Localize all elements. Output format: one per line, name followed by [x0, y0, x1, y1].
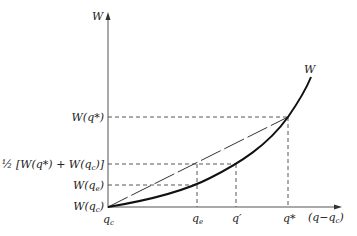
curve-label: W	[304, 63, 317, 76]
x-tick-labels: qe q′ q*	[192, 212, 296, 226]
x-axis-arrow-icon	[334, 205, 342, 210]
y-tick-w-qstar: W(q*)	[72, 111, 104, 124]
y-tick-w-qe: W(qe)	[73, 179, 104, 193]
chord-line	[108, 117, 288, 207]
x-tick-qstar: q*	[283, 212, 296, 225]
y-axis-label: W	[92, 10, 105, 23]
welfare-diagram: W W W(q*) ½ [W(q*) + W(qc)] W(qe) W(qc) …	[0, 0, 357, 236]
x-tick-qprime: q′	[232, 212, 242, 225]
y-tick-half: ½ [W(q*) + W(qc)]	[2, 158, 105, 172]
x-tick-qe: qe	[192, 212, 203, 226]
x-axis-label: (q−qc)	[308, 211, 344, 225]
axes	[106, 12, 343, 210]
origin-label: qc	[103, 213, 114, 227]
y-axis-arrow-icon	[106, 12, 111, 20]
welfare-curve	[108, 77, 311, 207]
y-tick-labels: W(q*) ½ [W(q*) + W(qc)] W(qe) W(qc)	[2, 111, 105, 214]
y-tick-w-qc: W(qc)	[73, 200, 104, 214]
